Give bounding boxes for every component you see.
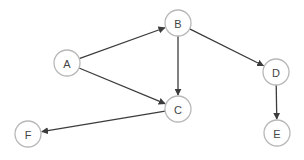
node-d: D [263,59,289,85]
edge-a-to-b [79,28,165,59]
node-label: D [272,67,280,79]
node-label: C [174,104,182,116]
graph-canvas: ABCDEF [0,0,304,160]
node-label: B [174,18,181,30]
node-c: C [165,96,191,122]
node-label: A [63,58,71,70]
node-a: A [54,50,80,76]
node-b: B [165,10,191,36]
nodes-layer: ABCDEF [15,10,290,147]
node-f: F [15,121,41,147]
node-e: E [264,120,290,146]
edge-a-to-c [79,68,165,104]
edge-b-to-d [190,29,264,66]
edges-layer [42,28,277,132]
node-label: E [273,128,280,140]
edge-d-to-e [276,85,277,119]
node-label: F [25,129,32,141]
edge-c-to-f [42,111,165,132]
